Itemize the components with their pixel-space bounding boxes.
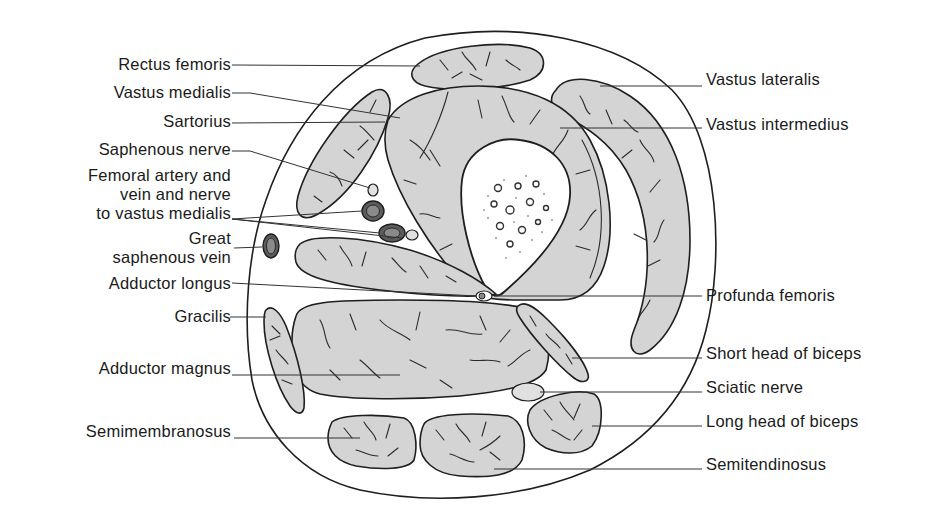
label-great-saphenous-vein-line-1: Great xyxy=(113,229,231,248)
label-great-saphenous-vein: Great saphenous vein xyxy=(113,229,231,267)
femoral-vein xyxy=(379,224,405,242)
nerve-to-vastus-medialis xyxy=(406,230,418,240)
label-saphenous-nerve: Saphenous nerve xyxy=(99,140,231,159)
label-profunda-femoris: Profunda femoris xyxy=(706,286,835,305)
label-femoral-vessels-line-3: to vastus medialis xyxy=(88,204,231,223)
label-gracilis: Gracilis xyxy=(174,307,231,326)
label-great-saphenous-vein-line-2: saphenous vein xyxy=(113,248,231,267)
label-femoral-vessels-line-2: vein and nerve xyxy=(88,185,231,204)
label-sartorius: Sartorius xyxy=(163,112,231,131)
label-short-head-biceps: Short head of biceps xyxy=(706,344,861,363)
label-adductor-longus: Adductor longus xyxy=(109,274,231,293)
adductor-magnus-muscle xyxy=(292,300,549,399)
label-vastus-intermedius: Vastus intermedius xyxy=(706,115,849,134)
profunda-femoris-vessel xyxy=(476,291,492,301)
label-vastus-medialis: Vastus medialis xyxy=(114,83,231,102)
sciatic-nerve xyxy=(512,383,544,401)
semitendinosus-muscle xyxy=(420,414,524,477)
great-saphenous-vein xyxy=(263,234,279,258)
label-adductor-magnus: Adductor magnus xyxy=(99,359,231,378)
label-rectus-femoris: Rectus femoris xyxy=(118,55,231,74)
label-long-head-biceps: Long head of biceps xyxy=(706,412,858,431)
label-sciatic-nerve: Sciatic nerve xyxy=(706,378,803,397)
label-semimembranosus: Semimembranosus xyxy=(86,422,231,441)
label-femoral-vessels: Femoral artery and vein and nerve to vas… xyxy=(88,166,231,223)
label-semitendinosus: Semitendinosus xyxy=(706,455,826,474)
saphenous-nerve-circle xyxy=(368,184,378,196)
label-femoral-vessels-line-1: Femoral artery and xyxy=(88,166,231,185)
label-vastus-lateralis: Vastus lateralis xyxy=(706,70,820,89)
femoral-artery xyxy=(362,201,384,221)
semimembranosus-muscle xyxy=(328,415,416,468)
